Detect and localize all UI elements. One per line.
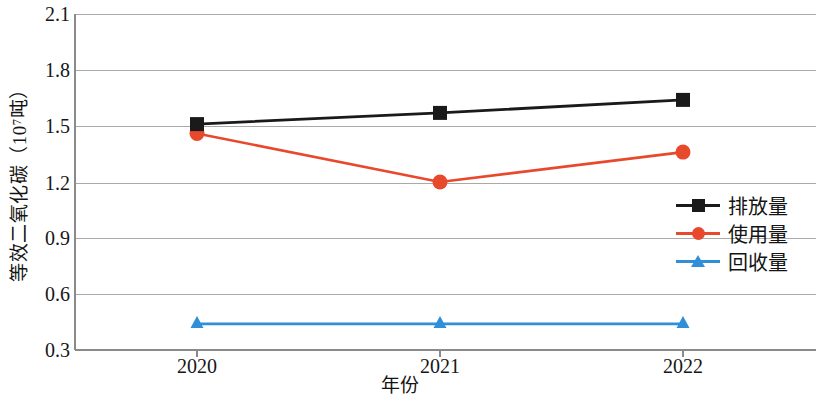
legend-label-recovery: 回收量 — [728, 247, 788, 276]
legend-swatch-circle-icon — [676, 222, 720, 244]
data-point-marker — [433, 106, 447, 120]
x-axis-title: 年份 — [0, 370, 816, 397]
x-axis-title-text: 年份 — [381, 375, 419, 396]
data-point-marker — [677, 316, 690, 328]
data-point-marker — [191, 316, 204, 328]
series-recovery — [191, 316, 690, 328]
chart-legend: 排放量 使用量 回收量 — [676, 191, 816, 275]
legend-swatch-triangle-icon — [676, 250, 720, 272]
legend-item-recovery: 回收量 — [676, 247, 816, 275]
legend-item-emission: 排放量 — [676, 191, 816, 219]
chart-container: 等效二氧化碳（10⁷吨） 2.1 1.8 1.5 1.2 0.9 0.6 0.3 — [0, 0, 816, 404]
legend-item-usage: 使用量 — [676, 219, 816, 247]
data-point-marker — [190, 117, 204, 131]
series-emission — [190, 93, 690, 131]
axis-spine — [75, 14, 683, 357]
data-point-marker — [434, 316, 447, 328]
legend-label-emission: 排放量 — [728, 191, 788, 220]
data-point-marker — [433, 175, 448, 190]
data-point-marker — [676, 93, 690, 107]
legend-swatch-square-icon — [676, 194, 720, 216]
series-usage — [190, 126, 691, 190]
data-point-marker — [676, 145, 691, 160]
legend-label-usage: 使用量 — [728, 219, 788, 248]
